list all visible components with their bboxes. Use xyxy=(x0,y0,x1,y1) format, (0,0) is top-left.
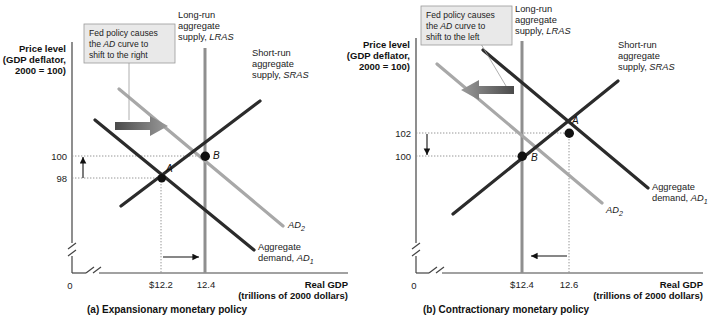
ad2-label-sub: 2 xyxy=(300,225,305,232)
y-axis-title-line2: (GDP deflator, xyxy=(347,50,410,61)
y-tick-102: 102 xyxy=(395,128,411,139)
ad2-label: AD2 xyxy=(287,220,305,232)
ad1-label-plain: demand, xyxy=(652,193,691,203)
panel-caption-b: (b) Contractionary monetary policy xyxy=(423,304,590,315)
ad1-label-italic: AD xyxy=(296,253,310,263)
y-axis-title-line1: Price level xyxy=(19,43,66,54)
ad2-label-sub: 2 xyxy=(618,210,623,217)
sras-label-line3: supply, SRAS xyxy=(618,62,675,72)
callout-line2-plain-b: curve to xyxy=(452,21,485,31)
lras-label-line1: Long-run xyxy=(178,10,215,20)
x-tick-122: $12.2 xyxy=(149,279,173,290)
equilibrium-point-b xyxy=(201,152,211,162)
callout-line2: the AD curve to xyxy=(426,21,485,31)
ad2-curve xyxy=(437,64,602,203)
lras-label-plain: supply, xyxy=(515,26,546,36)
callout-line1: Fed policy causes xyxy=(426,10,495,20)
ad1-label-plain: demand, xyxy=(258,253,297,263)
callout-line3: shift to the left xyxy=(426,32,480,42)
sras-label-line2: aggregate xyxy=(252,59,294,69)
x-tick-126: 12.6 xyxy=(560,279,579,290)
lras-label-italic: LRAS xyxy=(546,26,571,36)
equilibrium-point-a xyxy=(158,174,167,183)
sras-label-line1: Short-run xyxy=(618,40,657,50)
panel-expansionary-monetary-policy: A B Price level (GDP deflator, 2000 = 10… xyxy=(0,0,362,330)
x-tick-124: 12.4 xyxy=(197,279,216,290)
y-tick-100: 100 xyxy=(395,151,411,162)
x-axis-title-line2: (trillions of 2000 dollars) xyxy=(593,290,703,301)
ad2-label-italic: AD xyxy=(605,205,619,215)
callout-line2-plain-a: the xyxy=(426,21,440,31)
shift-arrow-left xyxy=(461,80,514,100)
x-tick-124: $12.4 xyxy=(510,279,534,290)
sras-label-plain: supply, xyxy=(252,70,283,80)
ad1-label-line2: demand, AD1 xyxy=(258,253,314,265)
ad1-label-sub: 1 xyxy=(310,258,314,265)
axes-group-b xyxy=(412,38,703,273)
shift-arrow-right xyxy=(115,116,168,136)
ad1-label-sub: 1 xyxy=(704,198,708,205)
y-axis-title-line3: 2000 = 100) xyxy=(359,61,410,72)
sras-label-plain: supply, xyxy=(618,62,649,72)
ad1-label-line2: demand, AD1 xyxy=(652,193,708,205)
ad1-curve xyxy=(95,120,254,250)
callout-line2-italic: AD xyxy=(439,21,452,31)
equilibrium-label-a: A xyxy=(571,115,579,126)
x-axis-break xyxy=(86,267,101,273)
y-axis-title-line1: Price level xyxy=(363,39,410,50)
ad2-label-italic: AD xyxy=(287,220,301,230)
origin-label: 0 xyxy=(411,280,416,291)
lras-label-line2: aggregate xyxy=(515,15,557,25)
equilibrium-point-b xyxy=(518,152,528,162)
lras-label-line1: Long-run xyxy=(515,4,552,14)
equilibrium-point-a xyxy=(565,129,575,139)
y-axis-title-line3: 2000 = 100) xyxy=(15,65,66,76)
y-tick-98: 98 xyxy=(56,173,67,184)
callout-line2-plain-a: the xyxy=(89,39,103,49)
x-axis-break xyxy=(429,267,444,273)
x-axis-title-line2: (trillions of 2000 dollars) xyxy=(238,290,348,301)
sras-label-line3: supply, SRAS xyxy=(252,70,309,80)
equilibrium-label-a: A xyxy=(165,163,173,174)
lras-label-line3: supply, LRAS xyxy=(515,26,571,36)
callout-contractionary: Fed policy causes the AD curve to shift … xyxy=(421,6,512,86)
callout-line2-italic: AD xyxy=(102,39,115,49)
equilibrium-label-b: B xyxy=(213,150,220,161)
sras-label-line2: aggregate xyxy=(618,51,660,61)
lras-label-line3: supply, LRAS xyxy=(178,32,234,42)
ad1-label-line1: Aggregate xyxy=(652,182,695,192)
y-axis-break xyxy=(412,243,420,256)
y-axis-title-line2: (GDP deflator, xyxy=(3,54,66,65)
ad2-label: AD2 xyxy=(605,205,623,217)
callout-line1: Fed policy causes xyxy=(89,28,158,38)
sras-label-italic: SRAS xyxy=(649,62,675,72)
ad1-label-line1: Aggregate xyxy=(258,242,301,252)
equilibrium-label-b: B xyxy=(531,152,538,163)
callout-expansionary: Fed policy causes the AD curve to shift … xyxy=(84,24,175,120)
sras-label-italic: SRAS xyxy=(283,70,309,80)
x-axis-title-line1: Real GDP xyxy=(660,279,704,290)
origin-label: 0 xyxy=(67,280,72,291)
figure-contractionary: A B Price level (GDP deflator, 2000 = 10… xyxy=(363,0,725,330)
y-tick-100: 100 xyxy=(51,151,67,162)
panel-caption-a: (a) Expansionary monetary policy xyxy=(87,304,247,315)
callout-line2: the AD curve to xyxy=(89,39,148,49)
lras-label-line2: aggregate xyxy=(178,21,220,31)
callout-line2-plain-b: curve to xyxy=(115,39,148,49)
x-axis-title-line1: Real GDP xyxy=(305,279,349,290)
callout-line3: shift to the right xyxy=(89,50,148,60)
y-axis-break xyxy=(68,243,76,256)
guide-lines-a xyxy=(72,156,205,273)
ad1-label-italic: AD xyxy=(690,193,704,203)
lras-label-plain: supply, xyxy=(178,32,209,42)
sras-label-line1: Short-run xyxy=(252,48,291,58)
panel-contractionary-monetary-policy: A B Price level (GDP deflator, 2000 = 10… xyxy=(363,0,725,330)
figure-expansionary: A B Price level (GDP deflator, 2000 = 10… xyxy=(0,0,362,330)
lras-label-italic: LRAS xyxy=(209,32,234,42)
